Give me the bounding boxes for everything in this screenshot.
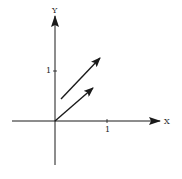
vector-translated xyxy=(61,58,100,99)
y-tick-label: 1 xyxy=(46,66,51,75)
vector-diagram: Y X 1 1 xyxy=(0,0,182,179)
y-axis-label: Y xyxy=(51,6,58,15)
x-axis-label: X xyxy=(164,117,170,126)
vector-from-origin xyxy=(55,88,93,121)
x-tick-label: 1 xyxy=(105,125,110,134)
